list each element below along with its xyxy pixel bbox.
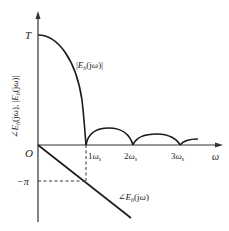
x-axis [38, 143, 223, 148]
frequency-response-diagram: T O −π ω |Eh(jω)| ∠Eh(jω) ∠Eh(jω), |Eh(j… [0, 0, 229, 231]
y-axis [36, 11, 41, 222]
x-tick-3ws: 3ωs [171, 151, 185, 162]
phase-curve-label: ∠Eh(jω) [118, 192, 149, 203]
neg-pi-label: −π [17, 176, 30, 187]
x-tick-ws: 1ωs [88, 151, 102, 162]
origin-label: O [25, 147, 33, 159]
amplitude-peak-label: T [25, 29, 32, 41]
x-tick-2ws: 2ωs [124, 151, 138, 162]
y-axis-arrow-icon [36, 11, 41, 19]
magnitude-curve [38, 35, 198, 145]
x-axis-label: ω [212, 151, 219, 162]
y-axis-label: ∠Eh(jω), |Eh(jω)| [10, 75, 21, 138]
x-axis-arrow-icon [215, 143, 223, 148]
magnitude-curve-label: |Eh(jω)| [76, 60, 103, 71]
